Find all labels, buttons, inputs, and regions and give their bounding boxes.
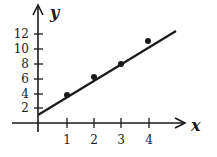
y-tick-labels: 2 4 6 8 10 12 <box>14 27 30 115</box>
y-tick-label: 2 <box>21 101 29 115</box>
data-point <box>118 61 124 67</box>
y-tick-label: 8 <box>21 57 29 71</box>
data-point <box>64 92 70 98</box>
chart: y x 2 4 6 8 10 12 1 2 3 4 <box>0 0 217 157</box>
y-tick-label: 12 <box>14 27 29 41</box>
y-tick-label: 10 <box>14 42 29 56</box>
y-tick-label: 6 <box>21 72 29 86</box>
x-tick-label: 4 <box>145 133 153 147</box>
x-tick-label: 1 <box>63 133 71 147</box>
x-axis-label: x <box>190 116 201 135</box>
y-tick-label: 4 <box>21 87 29 101</box>
x-tick-labels: 1 2 3 4 <box>63 133 153 147</box>
y-axis-label: y <box>49 3 61 22</box>
fitted-line <box>38 31 176 115</box>
x-tick-label: 2 <box>90 133 98 147</box>
data-point <box>145 38 151 44</box>
data-point <box>91 74 97 80</box>
x-tick-label: 3 <box>117 133 125 147</box>
data-points <box>64 38 151 98</box>
